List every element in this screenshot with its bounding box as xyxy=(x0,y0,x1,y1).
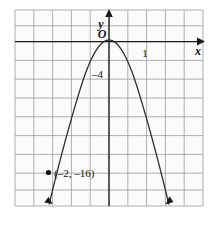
x-tick-label-1: 1 xyxy=(142,47,148,59)
marked-point-dot xyxy=(46,170,51,175)
parabola-figure: y x O 1 –4 (–2, –16) xyxy=(0,0,221,227)
point-annotation-label: (–2, –16) xyxy=(54,167,95,180)
x-axis-label: x xyxy=(194,44,201,58)
y-tick-label-minus4: –4 xyxy=(91,68,104,80)
origin-label: O xyxy=(98,27,107,41)
graph-canvas: y x O 1 –4 (–2, –16) xyxy=(0,0,221,227)
